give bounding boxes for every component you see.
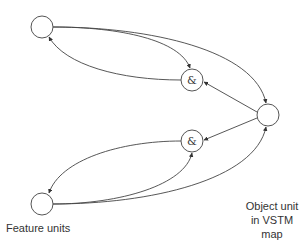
edge-feature-bottom-to-object <box>53 127 266 204</box>
feature-unit-bottom-node <box>31 193 53 215</box>
and-bottom-label: & <box>187 135 197 148</box>
object-unit-caption-line1: Object unit <box>240 199 304 213</box>
and-unit-bottom-node: & <box>181 130 203 152</box>
edge-feature-top-to-and-top <box>53 27 190 68</box>
edge-object-to-and-top <box>204 82 257 112</box>
edge-feature-bottom-to-and-bottom <box>53 153 192 204</box>
edge-and-bottom-to-feature-bottom <box>49 141 181 193</box>
feature-units-caption: Feature units <box>6 221 70 235</box>
feature-unit-top-node <box>31 16 53 38</box>
edge-feature-top-to-object <box>53 27 266 103</box>
object-unit-caption: Object unit in VSTM map <box>240 199 304 241</box>
and-top-label: & <box>187 74 197 87</box>
object-unit-caption-line2: in VSTM map <box>240 213 304 241</box>
edge-object-to-and-bottom <box>204 118 257 140</box>
and-unit-top-node: & <box>181 69 203 91</box>
object-unit-node <box>257 104 279 126</box>
